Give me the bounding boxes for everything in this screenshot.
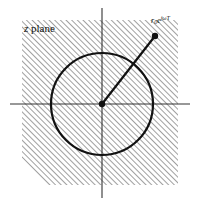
vector-endpoint-dot xyxy=(152,33,158,39)
vector-label: r0ejωT xyxy=(151,15,170,25)
plane-label-text: plane xyxy=(28,22,55,34)
vector-label-exponent: jωT xyxy=(161,15,170,21)
origin-dot xyxy=(99,101,105,107)
plane-label: z plane xyxy=(24,23,55,34)
